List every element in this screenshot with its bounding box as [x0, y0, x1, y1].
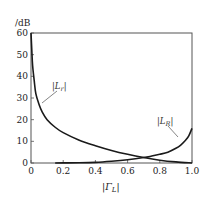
lr-curve-label: |Lr| [52, 81, 67, 93]
y-tick-label: 30 [17, 93, 29, 103]
lR-curve [55, 128, 192, 163]
y-tick-label: 60 [17, 28, 29, 38]
x-tick-label: 0.2 [56, 166, 70, 176]
x-tick-label: 0.4 [88, 166, 103, 176]
chart: 0102030405060 00.20.40.60.81.0 /dB |Lr| … [0, 0, 209, 203]
y-tick-label: 50 [17, 50, 29, 60]
lr-curve [31, 33, 192, 163]
plot-frame [31, 33, 192, 163]
lr-leader-line [42, 91, 57, 103]
curves [31, 33, 192, 163]
y-tick-label: 40 [17, 71, 29, 81]
x-tick-label: 0 [28, 166, 34, 176]
y-tick-label: 10 [17, 136, 29, 146]
y-tick-label: 20 [17, 115, 29, 125]
x-tick-label: 0.6 [120, 166, 135, 176]
x-tick-label: 0.8 [153, 166, 168, 176]
y-axis-unit: /dB [15, 18, 31, 28]
lR-curve-label: |LR| [157, 116, 173, 128]
x-tick-label: 1.0 [185, 166, 200, 176]
x-axis-title: |ΓL| [102, 181, 120, 194]
